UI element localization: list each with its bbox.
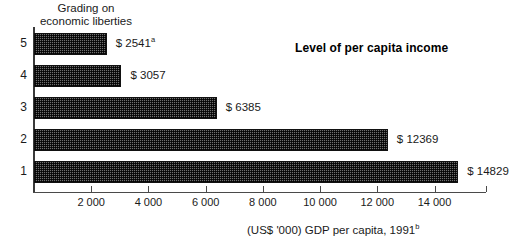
chart-annotation-title: Level of per capita income xyxy=(295,41,448,55)
y-tick-label: 2 xyxy=(9,132,27,146)
x-axis-caption: (US$ '000) GDP per capita, 1991b xyxy=(247,224,419,236)
y-tick-label: 5 xyxy=(9,36,27,50)
x-tick-label: 6 000 xyxy=(192,196,220,208)
bar-value-text: $ 3057 xyxy=(130,69,165,81)
bar xyxy=(34,65,121,87)
x-axis-caption-footnote: b xyxy=(415,222,419,231)
bar-value-label: $ 6385 xyxy=(226,101,261,113)
bar-value-label: $ 2541a xyxy=(116,37,155,49)
bar-value-text: $ 2541 xyxy=(116,37,151,49)
x-axis-end-tick xyxy=(486,186,487,192)
bar-chart: Grading on economic liberties $ 2541a5$ … xyxy=(0,0,512,244)
bar-value-text: $ 12369 xyxy=(397,133,439,145)
bar-value-label: $ 3057 xyxy=(130,69,165,81)
y-tick-label: 3 xyxy=(9,100,27,114)
x-tick-mark xyxy=(148,186,149,192)
x-tick-mark xyxy=(320,186,321,192)
bar-value-label: $ 14829 xyxy=(467,165,509,177)
x-tick-label: 4 000 xyxy=(135,196,163,208)
bar-value-label: $ 12369 xyxy=(397,133,439,145)
x-tick-label: 2 000 xyxy=(77,196,105,208)
x-tick-mark xyxy=(377,186,378,192)
x-tick-mark xyxy=(263,186,264,192)
bar xyxy=(34,161,458,183)
bar-value-text: $ 6385 xyxy=(226,101,261,113)
bar-value-footnote: a xyxy=(151,35,155,44)
x-tick-label: 10 000 xyxy=(303,196,337,208)
x-tick-mark xyxy=(435,186,436,192)
x-tick-label: 12 000 xyxy=(360,196,394,208)
bar xyxy=(34,97,217,119)
bar xyxy=(34,33,107,55)
x-axis-caption-text: (US$ '000) GDP per capita, 1991 xyxy=(247,224,415,236)
x-tick-label: 14 000 xyxy=(418,196,452,208)
x-tick-mark xyxy=(91,186,92,192)
x-axis-line xyxy=(33,192,486,193)
y-tick-label: 4 xyxy=(9,68,27,82)
y-tick-label: 1 xyxy=(9,164,27,178)
x-tick-mark xyxy=(206,186,207,192)
y-axis-caption: Grading on economic liberties xyxy=(6,2,166,28)
x-tick-label: 8 000 xyxy=(249,196,277,208)
bar xyxy=(34,129,388,151)
bar-value-text: $ 14829 xyxy=(467,165,509,177)
